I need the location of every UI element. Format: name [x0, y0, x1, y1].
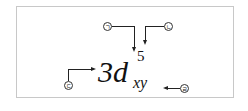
arrow-down-icon	[143, 40, 147, 45]
connector-line	[145, 26, 146, 41]
arrow-down-icon	[132, 47, 136, 52]
orbital-letter: d	[113, 55, 128, 88]
arrow-right-icon	[91, 67, 96, 71]
label-nieun: ㄴ	[164, 22, 173, 31]
superscript-electrons: 5	[137, 48, 145, 65]
connector-line	[112, 26, 135, 27]
connector-line	[168, 88, 180, 89]
connector-line	[145, 26, 164, 27]
connector-line	[134, 26, 135, 48]
arrow-left-icon	[163, 86, 168, 90]
subscript-orbital: xy	[133, 74, 147, 92]
connector-line	[68, 69, 92, 70]
label-giyeok: ㄱ	[103, 22, 112, 31]
connector-line	[68, 69, 69, 81]
label-rieul: ㄹ	[180, 84, 189, 93]
label-digeut: ㄷ	[64, 81, 73, 90]
orbital-notation: 3d	[98, 57, 128, 87]
coefficient: 3	[98, 55, 113, 88]
